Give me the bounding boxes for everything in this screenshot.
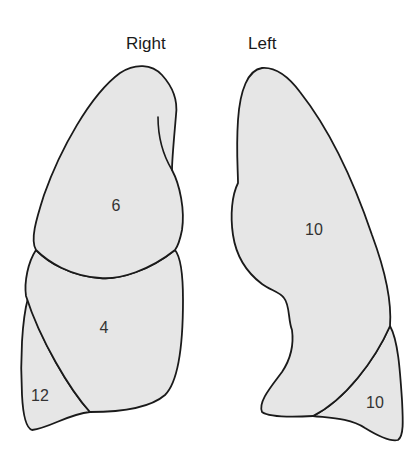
lung-diagram: Right Left 6 4 12 10 10 <box>0 0 420 463</box>
right-upper-lobe-label: 6 <box>112 197 121 214</box>
left-lung: 10 10 <box>232 68 403 440</box>
right-lung: 6 4 12 <box>21 66 183 430</box>
left-upper-lobe-label: 10 <box>305 221 323 238</box>
right-upper-lobe <box>34 66 183 278</box>
heading-left: Left <box>248 34 277 53</box>
left-lower-lobe-label: 10 <box>366 394 384 411</box>
right-middle-lobe-label: 4 <box>100 319 109 336</box>
heading-right: Right <box>126 34 166 53</box>
left-upper-lobe <box>232 68 391 417</box>
right-lower-lobe-label: 12 <box>31 387 49 404</box>
